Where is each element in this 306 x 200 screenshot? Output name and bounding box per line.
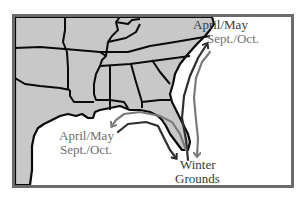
northeast-spring-label: April/May bbox=[193, 18, 248, 31]
migration-map bbox=[0, 0, 306, 200]
gulf-spring-label: April/May bbox=[59, 129, 114, 142]
winter-grounds-label-line2: Grounds bbox=[175, 172, 220, 185]
gulf-fall-label: Sept./Oct. bbox=[60, 143, 112, 156]
atlantic-fall-route bbox=[194, 52, 210, 156]
winter-grounds-label-line1: Winter bbox=[180, 158, 216, 171]
northeast-fall-label: Sept./Oct. bbox=[207, 32, 259, 45]
